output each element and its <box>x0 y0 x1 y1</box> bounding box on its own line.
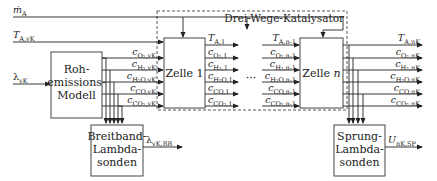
wideband-lambda-sensor-block: Breitband- Lambda- sonden <box>87 125 147 176</box>
svg-text:emissions-: emissions- <box>47 76 106 89</box>
svg-text:cH₂,n-1: cH₂,n-1 <box>270 58 296 72</box>
svg-text:cH₂,vK: cH₂,vK <box>132 58 156 72</box>
svg-text:cH₂,nK: cH₂,nK <box>395 58 420 72</box>
wideband-output: λvK,BR <box>143 134 182 148</box>
svg-text:Modell: Modell <box>57 89 96 102</box>
svg-text:cCO,vK: cCO,vK <box>130 82 156 96</box>
svg-text:Roh-: Roh- <box>64 63 90 76</box>
binary-lambda-sensor-block: Sprung- Lambda- sonden <box>334 125 385 176</box>
svg-text:cCO,n-1: cCO,n-1 <box>268 82 296 96</box>
svg-text:TA,1: TA,1 <box>208 32 225 46</box>
svg-text:cCO₂,1: cCO₂,1 <box>208 94 232 108</box>
lambda-input: λvK <box>13 71 50 85</box>
cell-n-output-signals: TA,nK cO₂,nK cH₂,nK cH₂O,nK cCO,nK cCO₂,… <box>343 32 422 123</box>
raw-emissions-model-block: Roh- emissions- Modell <box>47 52 106 118</box>
svg-text:cCO₂,nK: cCO₂,nK <box>391 94 420 108</box>
svg-text:cCO,nK: cCO,nK <box>394 82 421 96</box>
svg-text:cCO₂,vK: cCO₂,vK <box>127 94 156 108</box>
catalyst-title: Drei-Wege-Katalysator <box>224 12 345 24</box>
svg-text:Zelle n: Zelle n <box>302 67 340 80</box>
svg-text:Lambda-: Lambda- <box>93 143 142 156</box>
svg-text:sonden: sonden <box>97 156 137 169</box>
svg-text:TA,vK: TA,vK <box>13 29 35 43</box>
cell-n-input-signals: TA,n-1 cO₂,n-1 cH₂,n-1 cH₂O,n-1 cCO,n-1 … <box>262 32 299 108</box>
svg-text:ṁA: ṁA <box>13 4 27 18</box>
svg-text:λvK: λvK <box>13 71 28 85</box>
svg-text:cCO₂,n-1: cCO₂,n-1 <box>265 94 296 108</box>
svg-text:TA,nK: TA,nK <box>398 32 420 46</box>
cell-n-block: Zelle n <box>300 38 343 108</box>
catalyst-model-diagram: Drei-Wege-Katalysator ṁA TA,vK λvK Roh- … <box>0 0 437 181</box>
temperature-input: TA,vK <box>13 29 163 43</box>
svg-text:Zelle 1: Zelle 1 <box>165 67 203 80</box>
svg-text:Sprung-: Sprung- <box>337 130 382 143</box>
binary-output: UnK,SP <box>385 134 422 148</box>
svg-text:λvK,BR: λvK,BR <box>146 134 173 148</box>
diagram-canvas: Drei-Wege-Katalysator ṁA TA,vK λvK Roh- … <box>0 0 437 181</box>
svg-text:UnK,SP: UnK,SP <box>388 134 417 148</box>
cell-1-block: Zelle 1 <box>164 38 205 108</box>
svg-text:Lambda-: Lambda- <box>335 143 384 156</box>
cell-1-output-signals: TA,1 cO₂,1 cH₂,1 cH₂O,1 cCO,1 cCO₂,1 <box>205 32 238 108</box>
svg-text:TA,n-1: TA,n-1 <box>272 32 296 46</box>
svg-text:Breitband-: Breitband- <box>87 130 147 143</box>
ellipsis: ··· <box>246 72 257 85</box>
svg-text:sonden: sonden <box>340 156 380 169</box>
raw-emission-signal-labels: cO₂,vK cH₂,vK cH₂O,vK cCO,vK cCO₂,vK <box>127 46 156 108</box>
